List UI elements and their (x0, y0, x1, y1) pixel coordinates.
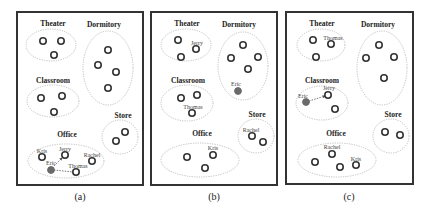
panel-b: Theater Jerry Dormitory Eric Classroom T… (151, 12, 277, 203)
region-boundary (161, 143, 239, 177)
region-store: Store (373, 110, 409, 153)
agent-marker (363, 55, 369, 61)
agent-marker (113, 69, 119, 75)
agent-marker (376, 42, 382, 48)
agent-marker (95, 62, 101, 68)
agent-marker (40, 38, 46, 44)
region-label: Store (385, 110, 403, 119)
agent-kris (353, 162, 359, 168)
region-classroom: Classroom (27, 76, 79, 117)
agent-eric-focus (235, 88, 242, 95)
region-office: Office Kris (161, 129, 239, 177)
agent-thomas (328, 41, 334, 47)
agent-marker (194, 92, 200, 98)
agent-name: Kris (208, 145, 219, 151)
agent-name: Thomas (68, 163, 88, 169)
agent-marker (178, 95, 184, 101)
region-label: Theater (309, 19, 335, 28)
agent-marker (228, 55, 234, 61)
agent-marker (122, 129, 128, 135)
region-classroom: Classroom Jerry Eric (296, 76, 348, 120)
region-label: Dormitory (361, 20, 395, 29)
agent-name: Rachel (324, 144, 341, 150)
region-label: Store (115, 111, 133, 120)
agent-marker (58, 38, 64, 44)
agent-marker (310, 37, 316, 43)
agent-name: Jerry (323, 85, 335, 91)
agent-marker (332, 106, 338, 112)
panel-caption: (a) (74, 191, 85, 203)
region-office: Office Kris Jerry Rachel Eric Thomas (28, 130, 104, 178)
region-dormitory: Dormitory (83, 20, 133, 105)
agent-marker (381, 75, 387, 81)
region-store: Store Rachel (238, 110, 274, 153)
region-label: Theater (174, 19, 200, 28)
region-label: Store (249, 110, 267, 119)
region-boundary (161, 85, 213, 121)
agent-marker (313, 54, 319, 60)
agent-kris (210, 152, 216, 158)
agent-marker (105, 47, 111, 53)
agent-name: Thomas (323, 35, 343, 41)
agent-marker (178, 54, 184, 60)
agent-jerry (325, 92, 331, 98)
region-boundary (161, 29, 211, 61)
region-label: Classroom (305, 76, 340, 85)
region-label: Office (192, 129, 212, 138)
agent-marker (260, 139, 266, 145)
region-classroom: Classroom Thomas (161, 76, 213, 121)
agent-marker (240, 42, 246, 48)
agent-eric-focus (48, 167, 55, 174)
panel-a: Theater Dormitory Classroom Store (17, 12, 143, 203)
region-boundary (83, 31, 133, 105)
region-boundary (357, 31, 407, 105)
agent-jerry (62, 152, 68, 158)
agent-marker (51, 109, 57, 115)
panel-c: Theater Thomas Dormitory Classroom Jerry… (286, 12, 413, 203)
agent-marker (312, 159, 318, 165)
agent-marker (202, 165, 208, 171)
region-label: Office (326, 129, 346, 138)
region-label: Dormitory (222, 20, 256, 29)
agent-marker (255, 54, 261, 60)
agent-jerry (193, 46, 199, 52)
figure-canvas: Theater Dormitory Classroom Store (0, 0, 427, 213)
region-label: Classroom (36, 76, 71, 85)
region-dormitory: Dormitory (357, 20, 407, 105)
panel-caption: (c) (343, 191, 354, 203)
agent-rachel (89, 158, 95, 164)
region-theater: Theater Thomas (297, 19, 345, 61)
agent-kris (39, 154, 45, 160)
agent-marker (184, 154, 190, 160)
region-theater: Theater (26, 19, 76, 61)
region-label: Theater (40, 19, 66, 28)
agent-rachel (329, 151, 335, 157)
agent-marker (105, 85, 111, 91)
agent-marker (245, 66, 251, 72)
region-label: Dormitory (87, 20, 121, 29)
agent-name: Eric (298, 93, 308, 99)
panel-caption: (b) (208, 191, 220, 203)
region-theater: Theater Jerry (161, 19, 211, 61)
agent-thomas (189, 110, 195, 116)
region-label: Classroom (171, 76, 206, 85)
agent-name: Eric (231, 81, 241, 87)
agent-marker (38, 95, 44, 101)
agent-marker (391, 54, 397, 60)
agent-marker (337, 164, 343, 170)
region-boundary (297, 29, 345, 61)
agent-marker (113, 138, 119, 144)
region-boundary (102, 120, 138, 154)
agent-rachel (249, 133, 255, 139)
agent-marker (397, 132, 403, 138)
agent-name: Jerry (191, 40, 203, 46)
agent-marker (51, 52, 57, 58)
agent-eric-focus (303, 99, 310, 106)
region-label: Office (57, 130, 77, 139)
agent-name: Eric (46, 160, 56, 166)
region-dormitory: Dormitory Eric (218, 20, 268, 100)
region-store: Store (102, 111, 138, 154)
agent-name: Thomas (183, 104, 203, 110)
agent-marker (382, 129, 388, 135)
region-office: Office Rachel Kris (298, 129, 376, 177)
